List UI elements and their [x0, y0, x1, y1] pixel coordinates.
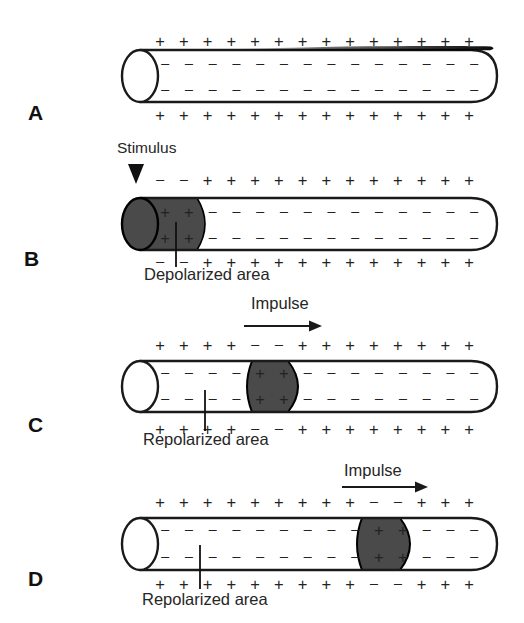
nerve-impulse-propagation-figure: ++++++++++++++−−−−−−−−−−−−−−−−−−−−−−−−−−…	[0, 0, 524, 623]
minus-charge: −	[445, 81, 455, 99]
minus-charge: −	[350, 548, 360, 566]
minus-charge: −	[231, 390, 241, 408]
minus-charge: −	[279, 81, 289, 99]
minus-charge: −	[274, 336, 284, 354]
minus-charge: −	[303, 548, 313, 566]
minus-charge: −	[422, 390, 432, 408]
plus-charge: +	[298, 336, 308, 354]
plus-charge: +	[298, 32, 308, 50]
panel-C: ++++−−++++++++−−−−++−−−−−−−−−−−−++−−−−−−…	[122, 321, 497, 438]
impulse-arrowhead-icon	[415, 482, 428, 493]
minus-charge: −	[208, 81, 218, 99]
minus-charge: −	[327, 81, 337, 99]
plus-charge: +	[322, 171, 332, 189]
plus-charge: +	[464, 493, 474, 511]
plus-charge: +	[298, 253, 308, 271]
minus-charge: −	[350, 521, 360, 539]
plus-charge: +	[440, 336, 450, 354]
minus-charge: −	[184, 548, 194, 566]
minus-charge: −	[374, 55, 384, 73]
minus-charge: −	[398, 229, 408, 247]
plus-charge: +	[298, 171, 308, 189]
axon-open-end	[122, 518, 158, 570]
plus-charge: +	[417, 32, 427, 50]
minus-charge: −	[160, 390, 170, 408]
stimulus-label: Stimulus	[117, 140, 176, 156]
minus-charge: −	[398, 390, 408, 408]
plus-charge: +	[322, 106, 332, 124]
plus-charge: +	[374, 548, 384, 566]
plus-charge: +	[464, 336, 474, 354]
minus-charge: −	[374, 390, 384, 408]
plus-charge: +	[298, 106, 308, 124]
plus-charge: +	[464, 32, 474, 50]
charge-row-outer-top: ++++++++++++++	[155, 32, 474, 50]
plus-charge: +	[417, 253, 427, 271]
minus-charge: −	[303, 55, 313, 73]
minus-charge: −	[445, 203, 455, 221]
plus-charge: +	[274, 106, 284, 124]
minus-charge: −	[160, 548, 170, 566]
minus-charge: −	[179, 171, 189, 189]
minus-charge: −	[255, 55, 265, 73]
plus-charge: +	[322, 420, 332, 438]
plus-charge: +	[345, 420, 355, 438]
panel-d-label: D	[28, 568, 43, 589]
plus-charge: +	[393, 32, 403, 50]
plus-charge: +	[279, 390, 289, 408]
stimulus-arrowhead-icon	[128, 164, 144, 184]
minus-charge: −	[184, 521, 194, 539]
minus-charge: −	[250, 336, 260, 354]
plus-charge: +	[417, 420, 427, 438]
minus-charge: −	[398, 364, 408, 382]
plus-charge: +	[255, 364, 265, 382]
minus-charge: −	[155, 171, 165, 189]
minus-charge: −	[469, 390, 479, 408]
plus-charge: +	[279, 364, 289, 382]
minus-charge: −	[327, 521, 337, 539]
charge-row-outer-top: +++++++++−−+++	[155, 493, 474, 511]
minus-charge: −	[160, 55, 170, 73]
minus-charge: −	[422, 521, 432, 539]
axon-end-cap-depolarized	[122, 198, 158, 250]
plus-charge: +	[345, 106, 355, 124]
minus-charge: −	[369, 493, 379, 511]
plus-charge: +	[155, 32, 165, 50]
repolarized-area-label-panel-c: Repolarized area	[143, 431, 269, 448]
minus-charge: −	[279, 548, 289, 566]
plus-charge: +	[369, 171, 379, 189]
minus-charge: −	[208, 548, 218, 566]
minus-charge: −	[422, 548, 432, 566]
minus-charge: −	[231, 364, 241, 382]
plus-charge: +	[393, 253, 403, 271]
panel-c-label: C	[28, 414, 43, 435]
minus-charge: −	[327, 364, 337, 382]
plus-charge: +	[369, 106, 379, 124]
minus-charge: −	[374, 203, 384, 221]
plus-charge: +	[203, 32, 213, 50]
minus-charge: −	[350, 390, 360, 408]
plus-charge: +	[250, 493, 260, 511]
minus-charge: −	[208, 229, 218, 247]
plus-charge: +	[179, 106, 189, 124]
plus-charge: +	[160, 203, 170, 221]
minus-charge: −	[374, 81, 384, 99]
plus-charge: +	[440, 493, 450, 511]
minus-charge: −	[208, 203, 218, 221]
minus-charge: −	[469, 229, 479, 247]
minus-charge: −	[160, 521, 170, 539]
minus-charge: −	[303, 203, 313, 221]
plus-charge: +	[203, 106, 213, 124]
plus-charge: +	[226, 32, 236, 50]
plus-charge: +	[393, 106, 403, 124]
plus-charge: +	[464, 106, 474, 124]
minus-charge: −	[422, 203, 432, 221]
minus-charge: −	[231, 81, 241, 99]
plus-charge: +	[393, 336, 403, 354]
minus-charge: −	[208, 390, 218, 408]
minus-charge: −	[327, 548, 337, 566]
minus-charge: −	[208, 521, 218, 539]
axon-open-end	[122, 361, 158, 412]
plus-charge: +	[274, 493, 284, 511]
minus-charge: −	[350, 229, 360, 247]
